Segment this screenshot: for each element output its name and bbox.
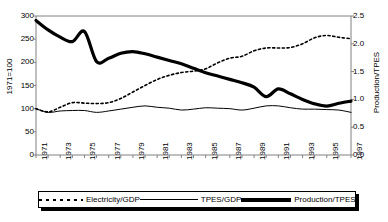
legend-label: Production/TPES bbox=[294, 195, 355, 204]
legend-swatch-thick-solid-icon bbox=[241, 198, 291, 202]
legend-swatch-thin-solid-icon bbox=[140, 199, 198, 200]
chart-figure: 1971=100 Production/TPES 050100150200250… bbox=[0, 0, 388, 222]
series-line-production-tpes bbox=[36, 20, 351, 106]
legend-item-production-tpes[interactable]: Production/TPES bbox=[241, 195, 355, 204]
legend-label: TPES/GDP bbox=[201, 195, 241, 204]
legend-item-tpes-gdp[interactable]: TPES/GDP bbox=[140, 195, 241, 204]
plot-area bbox=[0, 0, 388, 222]
legend-swatch-dotted-icon bbox=[39, 199, 83, 201]
legend-item-electricity-gdp[interactable]: Electricity/GDP bbox=[39, 195, 140, 204]
legend-label: Electricity/GDP bbox=[86, 195, 140, 204]
series-line-tpes-gdp bbox=[36, 106, 351, 113]
chart-legend: Electricity/GDPTPES/GDPProduction/TPES bbox=[38, 191, 356, 208]
